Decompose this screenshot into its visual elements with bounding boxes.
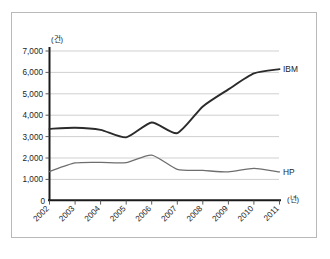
x-tick-label-2005: 2005 (108, 204, 128, 224)
y-tick-label-5000: 5,000 (23, 90, 44, 99)
series-label-hp: HP (283, 167, 295, 177)
y-tick-label-3000: 3,000 (23, 133, 44, 142)
y-tick-label-4000: 4,000 (23, 111, 44, 120)
line-chart: 7,000 6,000 5,000 4,000 3,000 2,000 1,00… (0, 0, 330, 259)
x-tick-label-2006: 2006 (134, 204, 154, 224)
x-tick-label-2011: 2011 (262, 204, 281, 223)
figure-root: 7,000 6,000 5,000 4,000 3,000 2,000 1,00… (0, 0, 330, 259)
x-axis-unit-label: (년) (287, 194, 300, 204)
series-line-hp (50, 155, 280, 172)
x-tick-label-2007: 2007 (159, 204, 179, 224)
x-axis (48, 200, 281, 204)
x-tick-label-2002: 2002 (32, 204, 52, 224)
series-label-ibm: IBM (283, 64, 298, 74)
x-tick-label-2008: 2008 (185, 204, 205, 224)
series-line-ibm (50, 69, 280, 137)
x-tick-labels: 2002 2003 2004 2005 2006 2007 2008 2009 … (32, 204, 282, 224)
y-axis (46, 47, 50, 201)
y-tick-label-2000: 2,000 (23, 154, 44, 163)
x-tick-label-2004: 2004 (83, 204, 103, 224)
y-tick-label-0: 0 (40, 197, 45, 206)
y-axis-unit-label: (건) (51, 34, 64, 44)
y-tick-label-7000: 7,000 (23, 47, 44, 56)
y-tick-labels: 7,000 6,000 5,000 4,000 3,000 2,000 1,00… (23, 47, 46, 206)
x-tick-label-2010: 2010 (236, 204, 256, 224)
x-tick-label-2009: 2009 (211, 204, 231, 224)
y-tick-label-1000: 1,000 (23, 175, 44, 184)
x-tick-label-2003: 2003 (57, 204, 77, 224)
gridlines-group (49, 51, 279, 179)
y-tick-label-6000: 6,000 (23, 68, 44, 77)
